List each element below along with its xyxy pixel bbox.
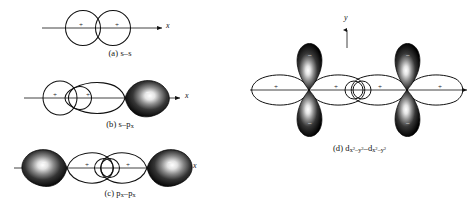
d-lobe-left-lower-negative-d — [297, 90, 322, 137]
sign-plus-left-a: + — [79, 21, 83, 29]
sign-minus-right-c: − — [168, 159, 172, 167]
p-lobe-negative-right-c — [147, 150, 192, 187]
caption-d-subscript-1: x2–y2 — [350, 146, 364, 153]
caption-d-sub-sup2-2: 2 — [384, 147, 386, 152]
sign-minus-right-lower-d: − — [406, 120, 410, 128]
sign-plus-right-c: + — [126, 161, 130, 169]
panel-b-s-px: + + − x — [22, 74, 212, 120]
panel-b-svg: + + − — [22, 74, 212, 120]
panel-d-dx2y2: + + + + − − − − y — [246, 18, 473, 142]
sign-plus-left-inner-d: + — [334, 83, 338, 91]
caption-c-prefix: (c) p — [104, 188, 120, 198]
p-lobe-negative-left-c — [22, 150, 67, 187]
caption-d-subscript-2: x2–y2 — [372, 146, 386, 153]
sign-plus-s-b: + — [53, 91, 57, 99]
sign-minus-left-upper-d: − — [308, 52, 312, 60]
caption-panel-b: (b) s–px — [0, 120, 240, 129]
caption-c-subscript2: x — [133, 191, 136, 198]
d-lobe-right-upper-negative-d — [395, 44, 420, 91]
sign-plus-right-outer-d: + — [438, 83, 442, 91]
caption-d-prefix: (d) d — [333, 143, 350, 153]
d-lobe-left-upper-negative-d — [297, 44, 322, 91]
caption-panel-d: (d) dx2–y2–dx2–y2 — [246, 144, 473, 153]
sign-plus-right-inner-d: + — [378, 83, 382, 91]
axis-label-x-c: x — [193, 162, 197, 170]
caption-panel-c: (c) px–px — [0, 189, 240, 198]
sign-minus-left-c: − — [42, 159, 46, 167]
caption-d-joiner: –d — [364, 143, 373, 153]
sign-minus-left-lower-d: − — [308, 120, 312, 128]
axis-label-y-d: y — [344, 14, 348, 22]
caption-panel-a: (a) s–s — [0, 49, 240, 58]
axis-label-x-a: x — [166, 22, 170, 30]
panel-d-svg: + + + + − − − − — [246, 18, 473, 142]
caption-c-middle: –p — [124, 188, 133, 198]
d-lobe-right-lower-negative-d — [395, 90, 420, 137]
sign-minus-right-upper-d: − — [406, 52, 410, 60]
sign-plus-left-c: + — [85, 161, 89, 169]
axis-label-x-b: x — [185, 92, 189, 100]
p-lobe-negative-shaded-b — [125, 81, 169, 117]
caption-b-subscript: x — [131, 122, 134, 129]
caption-b-prefix: (b) s–p — [106, 119, 131, 129]
sign-plus-left-outer-d: + — [274, 83, 278, 91]
sign-plus-right-a: + — [115, 21, 119, 29]
panel-c-px-px: − + + − x — [12, 144, 218, 190]
sign-plus-p-b: + — [86, 91, 90, 99]
sign-minus-p-b: − — [146, 89, 150, 97]
panel-a-svg: + + — [40, 6, 200, 50]
orbital-overlap-figure: + + x (a) s–s — [0, 0, 473, 212]
panel-c-svg: − + + − — [12, 144, 218, 190]
panel-a-s-s: + + x — [40, 6, 200, 50]
